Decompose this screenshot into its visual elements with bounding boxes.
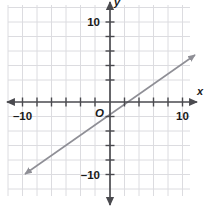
y-axis-label: y (113, 0, 121, 8)
x-tick-label-neg10: –10 (13, 110, 32, 122)
figure-background (0, 0, 212, 212)
coordinate-plane-figure: –10 10 10 –10 O x y (0, 0, 212, 212)
y-tick-label-neg10: –10 (81, 169, 100, 181)
x-tick-label-10: 10 (176, 110, 189, 122)
graph-canvas: –10 10 10 –10 O x y (0, 0, 212, 212)
x-axis-label: x (196, 85, 204, 97)
origin-label: O (95, 107, 104, 119)
y-tick-label-10: 10 (87, 16, 100, 28)
